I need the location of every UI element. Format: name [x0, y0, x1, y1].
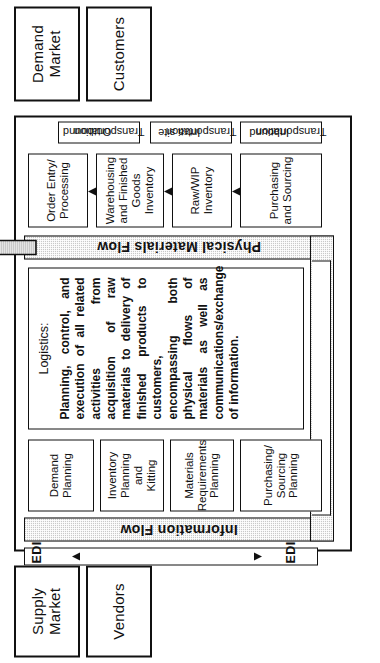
supply-market-box: Supply Market	[14, 565, 80, 657]
planning-box-2-line2: Planning and	[119, 442, 145, 508]
demand-market-line1: Demand	[30, 25, 47, 83]
planning-box-demand-planning: Demand Planning	[28, 439, 94, 511]
transportation-box-outbound: Outbound Transportation	[58, 121, 140, 143]
demand-market-line2: Market	[47, 30, 64, 77]
edi-arrow-down-icon	[254, 553, 262, 561]
logistics-title: Logistics:	[37, 277, 51, 419]
planning-box-0-line1: Purchasing/	[262, 445, 275, 506]
planning-box-2-line3: Kitting	[145, 459, 158, 491]
transportation-box-0-line2: Transportation	[256, 126, 327, 138]
execution-box-0-line1: Purchasing	[268, 161, 281, 219]
supply-market-line2: Market	[47, 587, 64, 634]
physical-materials-flow-label: Physical Materials Flow	[97, 239, 261, 255]
planning-box-3-line1: Demand	[48, 453, 61, 496]
execution-arrow-2-icon	[88, 187, 96, 195]
execution-box-0-line2: and Sourcing	[281, 156, 294, 224]
planning-box-1-line2: Requirements	[196, 439, 209, 511]
diagram-page: Supply Market Vendors Demand Market Cust…	[0, 0, 380, 663]
planning-box-purchasing-sourcing: Purchasing/ Sourcing Planning	[240, 439, 322, 511]
execution-box-2-line2: and Finished	[117, 157, 130, 223]
edi-label-top: EDI	[30, 541, 44, 563]
planning-box-inventory-kitting: Inventory Planning and Kitting	[100, 439, 164, 511]
transportation-box-1-line2: Transportation	[166, 126, 237, 138]
customers-box: Customers	[86, 6, 152, 101]
customers-label: Customers	[111, 16, 128, 90]
execution-box-1-line2: Inventory	[202, 166, 215, 213]
execution-box-2-line1: Warehousing	[104, 156, 117, 223]
logistics-body-text: Planning, control, and execution of all …	[58, 277, 242, 419]
execution-arrow-0-icon	[232, 187, 240, 195]
edi-label-bottom: EDI	[284, 541, 298, 563]
vendors-box: Vendors	[86, 565, 152, 657]
execution-box-order-entry-processing: Order Entry/ Processing	[28, 153, 88, 227]
diagram-canvas: Supply Market Vendors Demand Market Cust…	[0, 0, 380, 663]
execution-box-warehousing-finished-goods: Warehousing and Finished Goods Inventory	[96, 153, 164, 227]
demand-market-box: Demand Market	[14, 6, 80, 101]
vendors-label: Vendors	[111, 583, 128, 639]
execution-box-purchasing-sourcing: Purchasing and Sourcing	[240, 153, 322, 227]
planning-box-0-line2: Sourcing	[275, 452, 288, 497]
execution-box-3-line1: Order Entry/	[45, 159, 58, 222]
edi-arrow-up-icon	[72, 553, 80, 561]
information-flow-band: Information Flow	[24, 517, 334, 541]
transportation-box-2-line2: Transportation	[74, 126, 145, 138]
execution-box-3-line2: Processing	[58, 162, 71, 219]
execution-box-2-line4: Inventory	[143, 166, 156, 213]
materials-flow-big-arrow-icon	[0, 229, 38, 265]
transportation-box-inbound: Inbound Transportation	[240, 121, 322, 143]
supply-market-line1: Supply	[30, 587, 47, 634]
execution-arrow-1-icon	[164, 187, 172, 195]
edi-channel	[24, 547, 318, 565]
planning-box-materials-requirements: Materials Requirements Planning	[170, 439, 234, 511]
planning-box-0-line3: Planning	[287, 453, 300, 498]
transportation-box-intra-site: Intra site Transportation	[150, 121, 232, 143]
planning-box-2-line1: Inventory	[106, 451, 119, 498]
planning-box-1-line3: Planning	[208, 453, 221, 498]
physical-materials-flow-band: Physical Materials Flow	[24, 235, 334, 259]
execution-box-raw-wip-inventory: Raw/WIP Inventory	[172, 153, 232, 227]
planning-box-3-line2: Planning	[61, 453, 74, 498]
rotated-canvas-wrapper: Supply Market Vendors Demand Market Cust…	[0, 0, 380, 663]
planning-box-1-line1: Materials	[183, 452, 196, 499]
execution-box-1-line1: Raw/WIP	[189, 166, 202, 214]
logistics-definition-card: Logistics: Planning, control, and execut…	[28, 267, 304, 429]
information-flow-label: Information Flow	[120, 521, 238, 537]
execution-box-2-line3: Goods	[130, 173, 143, 207]
